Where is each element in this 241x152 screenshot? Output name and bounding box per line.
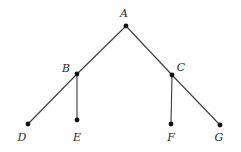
edge-c-f: [171, 75, 172, 124]
edge-a-c: [126, 26, 172, 75]
tree-diagram: ABCDEFG: [0, 0, 241, 152]
node-label-c: C: [177, 61, 186, 74]
node-label-b: B: [61, 62, 70, 75]
node-g: [218, 123, 223, 128]
tree-edges: [28, 26, 220, 125]
tree-labels: ABCDEFG: [17, 7, 224, 144]
node-label-g: G: [215, 131, 224, 144]
edge-b-d: [28, 74, 77, 124]
node-label-f: F: [166, 131, 175, 144]
node-a: [124, 24, 129, 29]
node-c: [170, 73, 175, 78]
tree-nodes: [26, 24, 223, 128]
edge-a-b: [77, 26, 126, 74]
node-label-d: D: [17, 131, 27, 144]
node-label-a: A: [119, 7, 128, 20]
node-label-e: E: [72, 131, 81, 144]
node-f: [169, 122, 174, 127]
node-b: [75, 72, 80, 77]
edge-c-g: [172, 75, 220, 125]
node-d: [26, 122, 31, 127]
node-e: [75, 118, 80, 123]
